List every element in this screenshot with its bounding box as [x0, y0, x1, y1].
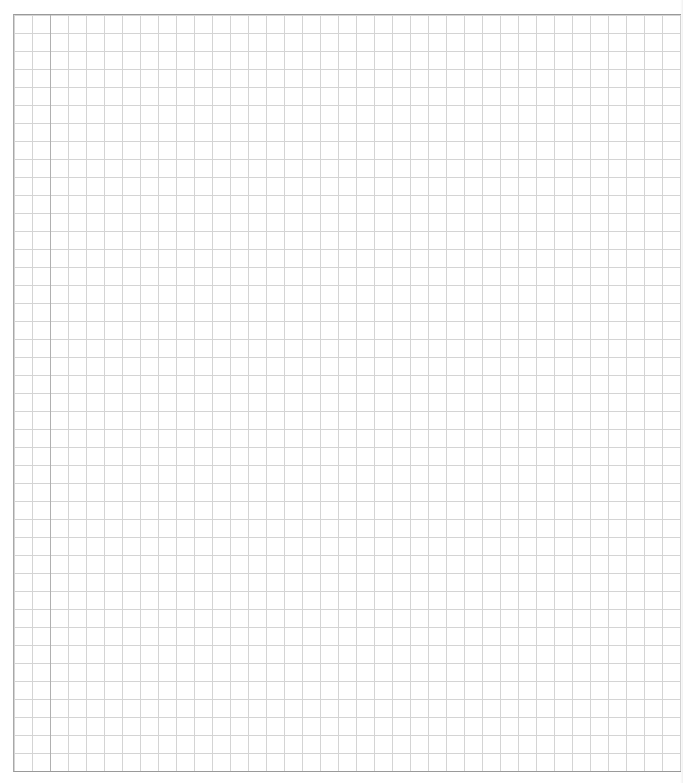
margin-line: [50, 15, 51, 771]
graph-paper-grid: [13, 14, 681, 772]
